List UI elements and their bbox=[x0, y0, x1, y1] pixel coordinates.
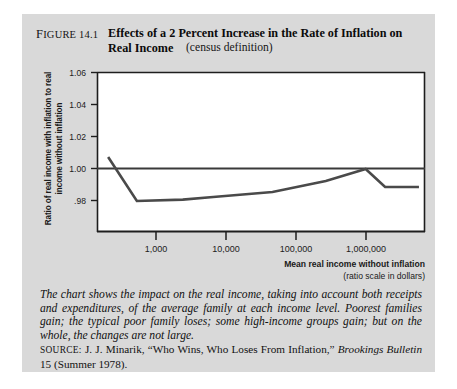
x-axis-ticks bbox=[156, 232, 366, 240]
x-tick-label-4: 1,000,000 bbox=[346, 244, 386, 254]
line-chart-svg: 1.06 1.04 1.02 1.00 .98 1,000 10,000 100… bbox=[22, 60, 435, 286]
x-tick-label-2: 10,000 bbox=[212, 244, 240, 254]
caption-source: SOURCE: J. J. Minarik, “Who Wins, Who Lo… bbox=[40, 343, 422, 371]
y-axis-ticks bbox=[91, 73, 97, 201]
source-text-a: J. J. Minarik, “Who Wins, Who Loses From… bbox=[82, 343, 338, 355]
y-tick-label-5: .98 bbox=[74, 196, 86, 206]
figure-panel: FIGURE 14.1 Effects of a 2 Percent Incre… bbox=[22, 14, 435, 372]
source-label: SOURCE: bbox=[40, 345, 82, 355]
y-tick-label-1: 1.06 bbox=[69, 68, 86, 78]
source-publication: Brookings Bulletin bbox=[338, 343, 422, 355]
figure-number-value: 14.1 bbox=[79, 29, 98, 40]
figure-number: FIGURE 14.1 bbox=[36, 27, 98, 42]
y-tick-label-4: 1.00 bbox=[69, 164, 86, 174]
figure-number-word: IGURE bbox=[43, 29, 76, 40]
x-tick-label-1: 1,000 bbox=[145, 244, 168, 254]
figure-caption: The chart shows the impact on the real i… bbox=[40, 288, 422, 372]
source-text-b: 15 (Summer 1978). bbox=[40, 358, 127, 370]
x-tick-label-3: 100,000 bbox=[280, 244, 313, 254]
figure-subtitle: (census definition) bbox=[186, 41, 273, 54]
x-axis-label-main: Mean real income without inflation bbox=[284, 259, 425, 269]
y-tick-label-3: 1.02 bbox=[69, 132, 86, 142]
y-tick-label-2: 1.04 bbox=[69, 100, 86, 110]
x-axis-label-sub: (ratio scale in dollars) bbox=[343, 271, 425, 281]
x-axis-label: Mean real income without inflation (rati… bbox=[284, 259, 425, 282]
caption-text: The chart shows the impact on the real i… bbox=[40, 288, 422, 342]
chart-area: Ratio of real income with inflation to r… bbox=[22, 60, 435, 286]
plot-background bbox=[97, 72, 425, 232]
